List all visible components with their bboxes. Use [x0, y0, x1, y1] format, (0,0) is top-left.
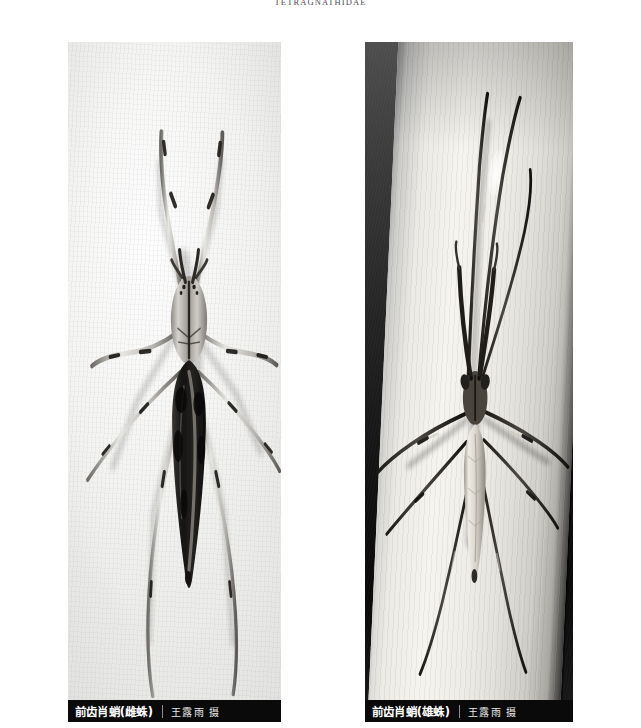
figure-male-spider: 前齿肖蛸(雄蛛) 王露雨 摄 [365, 42, 573, 722]
caption-bar-female: 前齿肖蛸(雌蛛) 王露雨 摄 [68, 700, 281, 722]
caption-credit-male: 王露雨 摄 [468, 704, 517, 719]
photo-female-spider [68, 42, 281, 722]
caption-bar-male: 前齿肖蛸(雄蛛) 王露雨 摄 [365, 700, 573, 722]
running-head: TETRAGNATHIDAE [0, 0, 641, 7]
caption-separator-icon [162, 705, 163, 718]
spider-male-illustration [365, 42, 573, 722]
photo-male-spider [365, 42, 573, 722]
caption-separator-icon [459, 705, 460, 718]
photo-vignette [68, 42, 281, 722]
figure-female-spider: 前齿肖蛸(雌蛛) 王露雨 摄 [68, 42, 281, 722]
figure-plate: 前齿肖蛸(雌蛛) 王露雨 摄 [28, 26, 613, 706]
caption-credit-female: 王露雨 摄 [171, 704, 220, 719]
caption-title-female: 前齿肖蛸(雌蛛) [75, 703, 153, 719]
caption-title-male: 前齿肖蛸(雄蛛) [372, 703, 450, 719]
